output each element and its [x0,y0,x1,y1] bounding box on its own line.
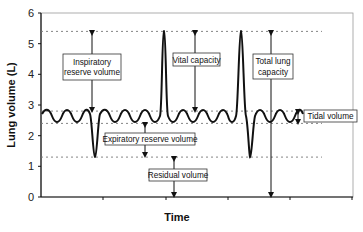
y-tick-1: 1 [28,160,34,172]
y-tick-0: 0 [28,191,34,203]
y-tick-2: 2 [28,130,34,142]
erv-label: Expiratory reserve volume [102,135,198,144]
y-tick-6: 6 [28,7,34,19]
tlc-label-line2: capacity [258,68,289,77]
y-tick-4: 4 [28,68,34,80]
lung-volume-chart: 0 1 2 3 4 5 6 Lung volume (L) Time Inspi… [0,0,363,232]
rv-label: Residual volume [148,171,209,180]
vc-label: Vital capacity [172,56,221,65]
x-axis-title: Time [164,211,189,223]
irv-label-line1: Inspiratory [73,58,112,67]
y-tick-5: 5 [28,38,34,50]
irv-label-line2: reserve volume [64,68,120,77]
tlc-label-line1: Total lung [255,57,290,66]
tv-label: Tidal volume [307,112,354,121]
y-axis-title: Lung volume (L) [5,62,17,148]
y-tick-3: 3 [28,99,34,111]
